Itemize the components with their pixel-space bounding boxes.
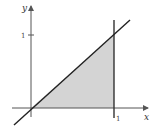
x-axis-label: x xyxy=(144,112,149,122)
y-tick-label: 1 xyxy=(21,32,25,40)
diagram: y x 1 1 xyxy=(0,0,155,128)
y-axis-label: y xyxy=(21,3,28,13)
x-tick-label: 1 xyxy=(116,115,120,123)
